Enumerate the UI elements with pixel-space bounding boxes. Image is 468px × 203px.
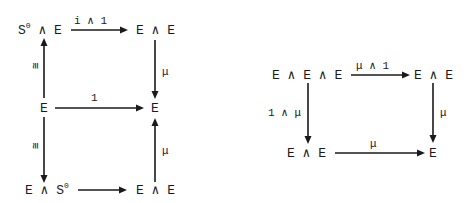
label-mu-right: μ: [440, 107, 447, 119]
node-e-smash-e-top: E ∧ E: [136, 23, 175, 38]
node-e-middle-left: E: [40, 101, 48, 116]
label-1-smash-mu: 1 ∧ μ: [268, 107, 301, 119]
arrowhead-right-icon: [417, 150, 425, 157]
arrowhead-down-icon: [305, 136, 312, 144]
node-e-bottom-right: E: [429, 146, 437, 161]
node-e-smash-e-bottom-left: E ∧ E: [287, 146, 326, 161]
node-s0-smash-e: S0 ∧ E: [18, 21, 62, 38]
associativity-diagram: E ∧ E ∧ E μ ∧ 1 E ∧ E 1 ∧ μ μ E ∧ E μ E: [268, 60, 453, 161]
label-i-smash-1: i ∧ 1: [74, 15, 107, 27]
node-e-middle-right: E: [151, 101, 159, 116]
node-e-smash-e-smash-e: E ∧ E ∧ E: [272, 68, 342, 83]
arrowhead-right-icon: [119, 187, 127, 194]
node-e-smash-e-top-right: E ∧ E: [414, 68, 453, 83]
unit-diagram: S0 ∧ E i ∧ 1 E ∧ E ≅ μ E 1 E ≅ μ E ∧ S0: [18, 15, 175, 198]
arrowhead-down-icon: [430, 135, 437, 143]
arrowhead-down-icon: [152, 91, 159, 99]
arrowhead-down-icon: [41, 175, 48, 183]
arrowhead-right-icon: [120, 27, 128, 34]
arrowhead-up-icon: [152, 118, 159, 126]
arrowhead-right-icon: [402, 72, 410, 79]
label-mu-bottom: μ: [370, 138, 377, 150]
arrowhead-right-icon: [136, 105, 144, 112]
label-iso-upper: ≅: [30, 62, 42, 69]
label-mu-lower: μ: [162, 145, 169, 157]
commutative-diagrams: S0 ∧ E i ∧ 1 E ∧ E ≅ μ E 1 E ≅ μ E ∧ S0: [0, 0, 468, 203]
label-iso-lower: ≅: [30, 142, 42, 149]
label-mu-upper: μ: [162, 66, 169, 78]
node-e-smash-e-bottom: E ∧ E: [136, 183, 175, 198]
label-identity: 1: [91, 92, 98, 104]
node-e-smash-s0: E ∧ S0: [25, 181, 69, 198]
label-mu-smash-1: μ ∧ 1: [356, 60, 389, 72]
arrowhead-up-icon: [41, 38, 48, 46]
